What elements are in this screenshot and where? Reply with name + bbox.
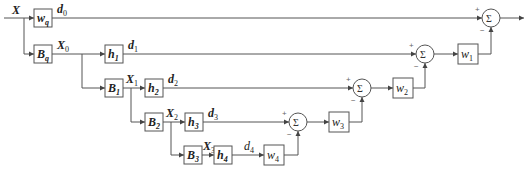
signal-X2: X2: [165, 106, 178, 122]
block-w2: w2: [393, 78, 413, 98]
svg-text:Σ: Σ: [357, 83, 363, 94]
signal-X3: X3: [202, 139, 215, 155]
signal-X0: X0: [56, 38, 69, 54]
summer-1: Σ + −: [409, 41, 434, 71]
signal-d1: d1: [128, 38, 138, 54]
multistage-wiener-filter-diagram: X wq d0 Σ + − Bq X0 h1 d1 Σ + − w1: [0, 0, 530, 174]
svg-text:−: −: [414, 62, 419, 71]
block-B3: B3: [184, 146, 202, 164]
svg-text:+: +: [475, 5, 480, 14]
signal-X1: X1: [125, 72, 138, 88]
svg-text:Σ: Σ: [486, 13, 492, 24]
svg-text:−: −: [287, 130, 292, 139]
input-label: X: [11, 3, 21, 17]
block-B2: B2: [145, 113, 163, 131]
block-h3: h3: [185, 113, 203, 131]
svg-text:+: +: [346, 75, 351, 84]
block-Bq: Bq: [34, 45, 52, 63]
signal-d3: d3: [208, 106, 218, 122]
block-h4: h4: [214, 146, 232, 164]
svg-text:Σ: Σ: [420, 49, 426, 60]
summer-2: Σ + −: [346, 75, 371, 105]
block-w1: w1: [458, 44, 478, 64]
svg-text:−: −: [480, 26, 485, 35]
block-wq: wq: [34, 9, 52, 27]
block-w4: w4: [264, 145, 284, 165]
block-B1: B1: [105, 79, 123, 97]
signal-d2: d2: [168, 72, 178, 88]
summer-0: Σ + −: [475, 5, 500, 35]
signal-d4: d4: [244, 139, 254, 155]
signal-d0: d0: [57, 2, 67, 18]
svg-text:Σ: Σ: [293, 117, 299, 128]
block-h2: h2: [145, 79, 163, 97]
block-w3: w3: [329, 112, 349, 132]
svg-text:−: −: [351, 96, 356, 105]
svg-text:+: +: [409, 41, 414, 50]
svg-text:+: +: [282, 109, 287, 118]
summer-3: Σ + −: [282, 109, 307, 139]
block-h1: h1: [105, 45, 123, 63]
